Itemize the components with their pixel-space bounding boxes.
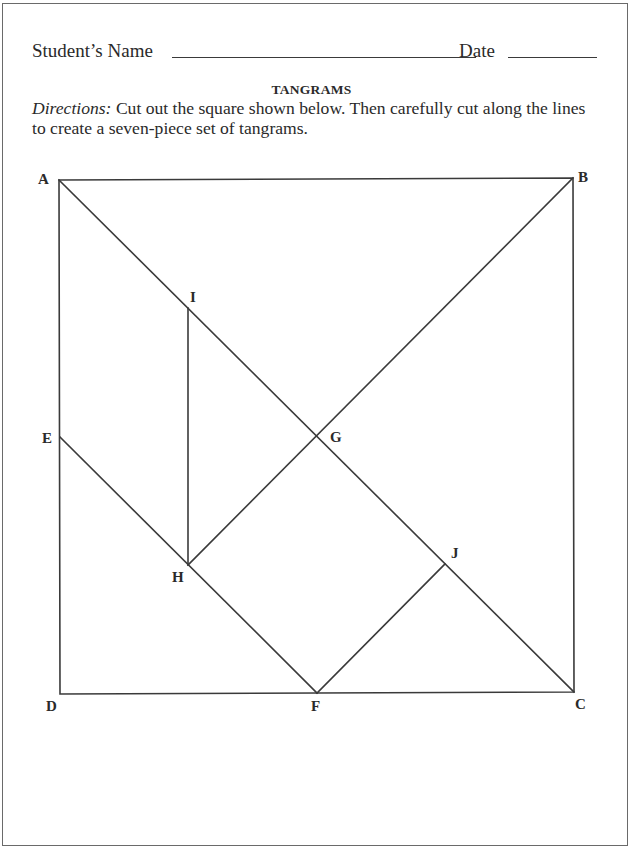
segment-b-h bbox=[188, 178, 573, 565]
label-point-e: E bbox=[42, 431, 52, 446]
label-point-b: B bbox=[578, 170, 588, 185]
label-point-h: H bbox=[172, 570, 184, 585]
label-point-i: I bbox=[190, 290, 196, 305]
label-point-f: F bbox=[311, 699, 320, 714]
label-point-d: D bbox=[46, 699, 57, 714]
label-point-a: A bbox=[38, 172, 49, 187]
segment-f-j bbox=[317, 564, 445, 693]
label-point-j: J bbox=[451, 546, 459, 561]
label-point-c: C bbox=[575, 697, 586, 712]
label-point-g: G bbox=[330, 430, 342, 445]
